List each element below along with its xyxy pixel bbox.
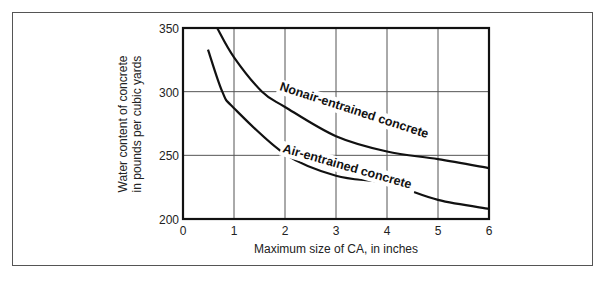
x-tick-label: 5 xyxy=(435,224,442,238)
curves xyxy=(208,28,489,209)
y-tick-label: 350 xyxy=(159,22,179,36)
x-tick-label: 2 xyxy=(282,224,289,238)
y-tick-label: 200 xyxy=(159,213,179,227)
y-tick-label: 300 xyxy=(159,86,179,100)
water-content-chart: 0123456200250300350 Maximum size of CA, … xyxy=(0,0,604,282)
x-tick-label: 6 xyxy=(486,224,493,238)
y-tick-label: 250 xyxy=(159,149,179,163)
x-tick-label: 3 xyxy=(333,224,340,238)
air-entrained-curve xyxy=(208,50,489,209)
grid-lines xyxy=(183,28,489,219)
y-axis-label-line1: Water content of concrete xyxy=(116,55,130,192)
x-tick-label: 1 xyxy=(231,224,238,238)
x-tick-label: 0 xyxy=(180,224,187,238)
air-curve-label: Air-entrained concrete xyxy=(281,141,413,191)
nonair-curve-label: Nonair-entrained concrete xyxy=(278,80,430,141)
x-axis-label: Maximum size of CA, in inches xyxy=(254,242,418,256)
nonair-entrained-curve xyxy=(217,28,489,168)
y-axis-label-line2: in pounds per cubic yards xyxy=(130,56,144,193)
x-tick-label: 4 xyxy=(384,224,391,238)
